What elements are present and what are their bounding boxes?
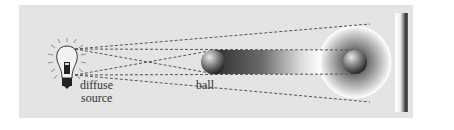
ball-shadow-core	[343, 50, 367, 74]
diagram: diffuse source ball	[0, 0, 454, 130]
diagram-canvas: diffuse source ball	[0, 0, 454, 130]
shadow-beam	[213, 50, 321, 74]
ball-label: ball	[196, 78, 215, 92]
screen	[395, 13, 408, 112]
source-label-line1: diffuse	[80, 78, 113, 92]
ball	[201, 50, 225, 74]
source-label-line2: source	[81, 91, 112, 105]
